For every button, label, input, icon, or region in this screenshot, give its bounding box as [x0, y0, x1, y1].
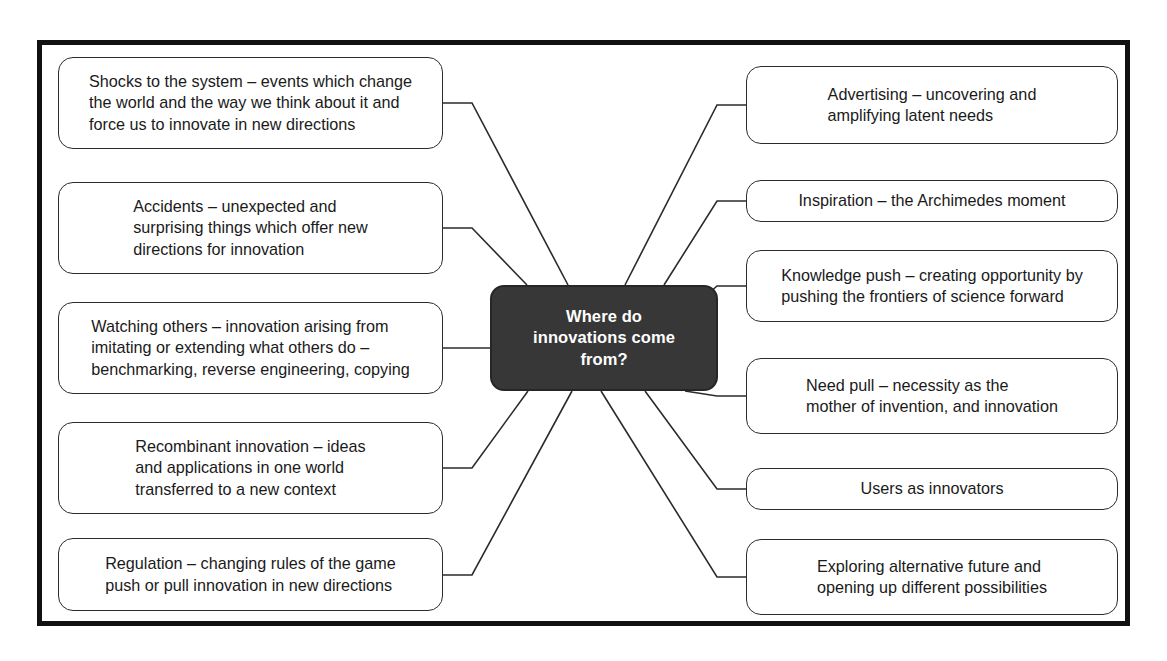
node-advertising-label: Advertising – uncovering and amplifying …: [828, 84, 1037, 126]
node-need-pull-label: Need pull – necessity as the mother of i…: [806, 375, 1058, 417]
node-watching-others-label: Watching others – innovation arising fro…: [91, 316, 410, 379]
center-node-label: Where do innovations come from?: [533, 306, 675, 369]
node-accidents-label: Accidents – unexpected and surprising th…: [133, 196, 368, 259]
node-exploring-alternative-futures-label: Exploring alternative future and opening…: [817, 556, 1047, 598]
node-knowledge-push-label: Knowledge push – creating opportunity by…: [781, 265, 1082, 307]
node-need-pull[interactable]: Need pull – necessity as the mother of i…: [746, 358, 1118, 434]
node-watching-others[interactable]: Watching others – innovation arising fro…: [58, 302, 443, 394]
center-node-question[interactable]: Where do innovations come from?: [490, 285, 718, 391]
node-recombinant-innovation-label: Recombinant innovation – ideas and appli…: [135, 436, 365, 499]
node-regulation[interactable]: Regulation – changing rules of the game …: [58, 538, 443, 611]
node-accidents[interactable]: Accidents – unexpected and surprising th…: [58, 182, 443, 274]
node-advertising[interactable]: Advertising – uncovering and amplifying …: [746, 66, 1118, 144]
node-users-as-innovators-label: Users as innovators: [860, 478, 1003, 499]
diagram-canvas: Shocks to the system – events which chan…: [0, 0, 1167, 661]
node-knowledge-push[interactable]: Knowledge push – creating opportunity by…: [746, 250, 1118, 322]
node-shocks-to-the-system-label: Shocks to the system – events which chan…: [89, 71, 412, 134]
node-inspiration-label: Inspiration – the Archimedes moment: [798, 190, 1065, 211]
node-shocks-to-the-system[interactable]: Shocks to the system – events which chan…: [58, 57, 443, 149]
node-inspiration[interactable]: Inspiration – the Archimedes moment: [746, 180, 1118, 222]
node-recombinant-innovation[interactable]: Recombinant innovation – ideas and appli…: [58, 422, 443, 514]
node-exploring-alternative-futures[interactable]: Exploring alternative future and opening…: [746, 539, 1118, 615]
node-regulation-label: Regulation – changing rules of the game …: [105, 553, 396, 595]
node-users-as-innovators[interactable]: Users as innovators: [746, 468, 1118, 510]
